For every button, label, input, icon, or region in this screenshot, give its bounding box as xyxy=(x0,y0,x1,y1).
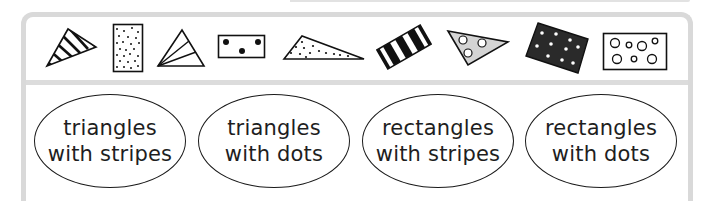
shape-triangle-lines[interactable] xyxy=(156,28,208,70)
category-rectangles-with-dots[interactable]: rectangles with dots xyxy=(525,94,677,188)
category-label-line2: with stripes xyxy=(376,141,500,167)
shape-triangle-small-dots[interactable] xyxy=(282,34,366,62)
category-label-line2: with dots xyxy=(545,141,657,167)
panel-divider xyxy=(26,80,688,85)
category-label-line1: triangles xyxy=(48,115,172,141)
previous-panel-edge xyxy=(290,0,690,2)
category-label-line2: with dots xyxy=(225,141,323,167)
category-label-line2: with stripes xyxy=(48,141,172,167)
category-label-line1: rectangles xyxy=(376,115,500,141)
shape-rectangle-three-dots[interactable] xyxy=(217,34,267,60)
category-label-line1: rectangles xyxy=(545,115,657,141)
shape-triangle-stripes[interactable] xyxy=(44,27,100,69)
category-label: triangles with dots xyxy=(225,115,323,167)
category-label-line1: triangles xyxy=(225,115,323,141)
category-triangles-with-dots[interactable]: triangles with dots xyxy=(198,94,350,188)
category-label: rectangles with stripes xyxy=(376,115,500,167)
shape-rectangle-stripes[interactable] xyxy=(376,22,432,72)
category-triangles-with-stripes[interactable]: triangles with stripes xyxy=(34,94,186,188)
shape-triangle-circles[interactable] xyxy=(446,28,512,68)
shape-rectangle-small-dots[interactable] xyxy=(112,23,144,73)
category-row: triangles with stripes triangles with do… xyxy=(0,86,707,201)
category-label: rectangles with dots xyxy=(545,115,657,167)
shape-rectangle-circles[interactable] xyxy=(602,32,668,72)
shape-rectangle-black-white-dots[interactable] xyxy=(524,19,590,77)
category-rectangles-with-stripes[interactable]: rectangles with stripes xyxy=(362,94,514,188)
category-label: triangles with stripes xyxy=(48,115,172,167)
